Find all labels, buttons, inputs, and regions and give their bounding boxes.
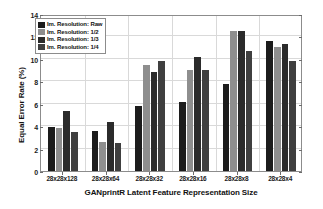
y-tick-label: 4: [18, 124, 38, 131]
bar: [179, 102, 186, 171]
y-tick-label: 6: [18, 101, 38, 108]
bar: [246, 51, 253, 171]
bar: [63, 111, 70, 171]
legend-label: Im. Resolution: Raw: [47, 21, 102, 28]
y-tick-mark: [40, 150, 43, 151]
bar: [282, 44, 289, 171]
legend-label: Im. Resolution: 1/2: [47, 29, 98, 36]
gridline-x: [172, 16, 173, 171]
bar: [107, 122, 114, 171]
y-tick-mark: [40, 105, 43, 106]
bar: [202, 70, 209, 171]
gridline-x: [259, 16, 260, 171]
bar: [274, 47, 281, 171]
legend-item: Im. Resolution: 1/3: [38, 36, 102, 44]
y-tick-mark: [299, 150, 302, 151]
bar: [135, 106, 142, 171]
legend-item: Im. Resolution: 1/2: [38, 29, 102, 37]
bar: [71, 132, 78, 171]
bar: [143, 65, 150, 171]
gridline-y-10: [41, 58, 301, 59]
x-tick-mark: [193, 172, 194, 175]
x-tick-mark: [106, 172, 107, 175]
y-tick-label: 10: [18, 56, 38, 63]
x-tick-label: 28x28x64: [92, 175, 119, 182]
x-tick-mark: [237, 172, 238, 175]
x-tick-label: 28x28x16: [179, 175, 206, 182]
gridline-y-8: [41, 80, 301, 81]
gridline-x: [128, 16, 129, 171]
bar: [289, 61, 296, 171]
bar: [223, 84, 230, 171]
legend-label: Im. Resolution: 1/3: [47, 36, 98, 43]
y-tick-label: 2: [18, 146, 38, 153]
bar: [115, 143, 122, 171]
x-tick-label: 28x28x8: [225, 175, 249, 182]
bar-chart-figure: Equal Error Rate (%) 02468101214 28x28x1…: [0, 0, 323, 209]
gridline-y-2: [41, 148, 301, 149]
x-tick-mark: [149, 172, 150, 175]
x-tick-label: 28x28x128: [46, 175, 77, 182]
bar: [92, 131, 99, 171]
y-tick-mark: [40, 15, 43, 16]
bar: [194, 57, 201, 171]
legend-label: Im. Resolution: 1/4: [47, 44, 98, 51]
bar: [238, 31, 245, 171]
y-tick-label: 0: [18, 169, 38, 176]
bar: [48, 127, 55, 171]
x-tick-label: 28x28x32: [135, 175, 162, 182]
gridline-y-6: [41, 103, 301, 104]
legend-swatch-icon: [38, 22, 45, 28]
legend-item: Im. Resolution: Raw: [38, 21, 102, 29]
y-tick-mark: [299, 105, 302, 106]
legend-swatch-icon: [38, 29, 45, 35]
y-tick-mark: [299, 172, 302, 173]
y-tick-mark: [40, 127, 43, 128]
y-tick-mark: [299, 60, 302, 61]
x-axis-label: GANprintR Latent Feature Representation …: [40, 188, 302, 197]
y-tick-mark: [40, 82, 43, 83]
y-tick-mark: [299, 15, 302, 16]
gridline-x: [216, 16, 217, 171]
bar: [187, 70, 194, 171]
legend-item: Im. Resolution: 1/4: [38, 44, 102, 52]
bar: [56, 128, 63, 171]
x-tick-mark: [62, 172, 63, 175]
legend-swatch-icon: [38, 44, 45, 50]
x-tick-mark: [280, 172, 281, 175]
y-tick-mark: [299, 82, 302, 83]
y-tick-label: 8: [18, 79, 38, 86]
y-tick-mark: [299, 37, 302, 38]
y-tick-mark: [40, 60, 43, 61]
gridline-y-4: [41, 125, 301, 126]
y-tick-mark: [40, 172, 43, 173]
legend: Im. Resolution: RawIm. Resolution: 1/2Im…: [35, 18, 106, 54]
legend-swatch-icon: [38, 37, 45, 43]
bar: [230, 31, 237, 171]
bar: [266, 41, 273, 171]
bar: [158, 61, 165, 171]
y-tick-mark: [299, 127, 302, 128]
bar: [99, 142, 106, 171]
x-tick-label: 28x28x4: [268, 175, 292, 182]
bar: [151, 72, 158, 171]
